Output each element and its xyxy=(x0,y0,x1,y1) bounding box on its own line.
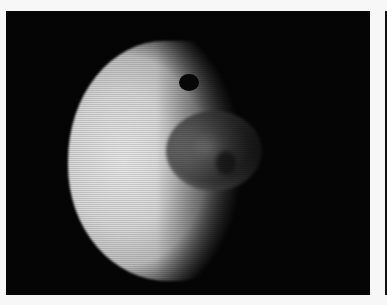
image-frame xyxy=(6,11,370,295)
scanline-overlay xyxy=(6,11,370,295)
